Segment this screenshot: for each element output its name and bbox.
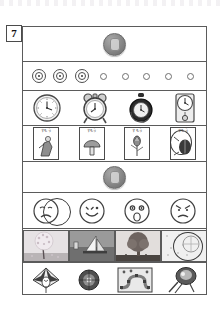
alarm-clock-glyph (80, 92, 110, 124)
empty-dot-8[interactable] (179, 73, 201, 80)
sugoroku-board-icon[interactable] (117, 267, 153, 293)
target-dot-3[interactable] (71, 69, 93, 83)
card-label: すもう (125, 129, 149, 133)
kite-icon[interactable] (31, 266, 61, 294)
spinning-top-glyph (76, 267, 102, 293)
hanetsuki-paddle-glyph (168, 266, 198, 294)
question-number-box: 7 (6, 25, 22, 42)
row-prompt-icon-bottom (23, 162, 206, 193)
empty-dot-7[interactable] (158, 73, 180, 80)
flower-art (126, 134, 148, 158)
pocket-watch-glyph (127, 92, 155, 124)
empty-dot-icon (165, 73, 172, 80)
empty-dot-6[interactable] (136, 73, 158, 80)
photo-summer-sailboat[interactable] (69, 230, 115, 262)
row-prompt-icon-top (23, 27, 206, 62)
photo-autumn-tree[interactable] (115, 230, 161, 262)
row-season-photo-choices (23, 229, 206, 263)
summer-sailboat-art (70, 231, 114, 261)
surprised-face-icon[interactable] (122, 196, 152, 226)
empty-dot-icon (122, 73, 129, 80)
photo-tile (115, 230, 161, 262)
target-dot-2[interactable] (50, 69, 72, 83)
empty-dot-icon (187, 73, 194, 80)
photo-tile (23, 230, 69, 262)
pocket-watch-icon[interactable] (127, 92, 155, 124)
insect-art (172, 134, 194, 158)
card-label: すもう (80, 129, 104, 133)
question-frame: すもう すもう (22, 26, 207, 295)
photo-tile (69, 230, 115, 262)
autumn-tree-art (116, 231, 160, 261)
spring-blossom-art (24, 231, 68, 261)
wall-clock-icon[interactable] (32, 93, 62, 123)
card-face: すもう (124, 127, 150, 160)
spinning-top-icon[interactable] (76, 267, 102, 293)
target-dot-icon (75, 69, 89, 83)
target-dot-icon (53, 69, 67, 83)
sad-face-icon[interactable] (31, 196, 61, 226)
row-clock-choices (23, 91, 206, 126)
target-dot-icon (32, 69, 46, 83)
photo-tile (161, 230, 207, 262)
card-label: すもう (171, 129, 195, 133)
sad-face-glyph (31, 196, 61, 226)
angry-face-icon[interactable] (168, 196, 198, 226)
surprised-face-glyph (122, 196, 152, 226)
pendulum-clock-glyph (173, 92, 197, 124)
gray-disc-inner (110, 171, 120, 184)
pendulum-clock-icon[interactable] (173, 92, 197, 124)
card-insect[interactable]: すもう (170, 127, 196, 160)
sugoroku-board-glyph (117, 267, 153, 293)
empty-dot-5[interactable] (115, 73, 137, 80)
card-flower[interactable]: すもう (124, 127, 150, 160)
target-dot-1[interactable] (28, 69, 50, 83)
row-card-choices: すもう すもう (23, 126, 206, 162)
row-target-dots (23, 62, 206, 91)
wrestler-art (35, 134, 57, 158)
worksheet-slide: 7 (0, 0, 220, 313)
winter-snow-art (162, 231, 206, 261)
empty-dot-icon (100, 73, 107, 80)
card-label: すもう (34, 129, 58, 133)
empty-dot-icon (143, 73, 150, 80)
wall-clock-glyph (32, 93, 62, 123)
photo-spring-blossom-tree[interactable] (23, 230, 69, 262)
card-face: すもう (79, 127, 105, 160)
card-sumo[interactable]: すもう (33, 127, 59, 160)
happy-face-glyph (77, 196, 107, 226)
hanetsuki-paddle-icon[interactable] (168, 266, 198, 294)
gray-disc-icon (103, 166, 126, 189)
row-face-choices (23, 193, 206, 229)
kite-glyph (31, 266, 61, 294)
card-face: すもう (33, 127, 59, 160)
happy-face-icon[interactable] (77, 196, 107, 226)
mushroom-art (81, 134, 103, 158)
row-new-year-toy-choices (23, 263, 206, 296)
gray-disc-icon (103, 33, 126, 56)
card-face: すもう (170, 127, 196, 160)
card-mushroom[interactable]: すもう (79, 127, 105, 160)
angry-face-glyph (168, 196, 198, 226)
photo-winter-snow[interactable] (161, 230, 207, 262)
alarm-clock-icon[interactable] (80, 92, 110, 124)
gray-disc-inner (110, 38, 120, 51)
empty-dot-4[interactable] (93, 73, 115, 80)
